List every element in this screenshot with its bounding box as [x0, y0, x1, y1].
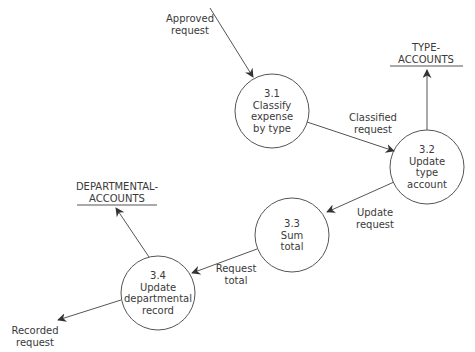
process-label: 3.1 Classify expense by type	[251, 88, 293, 134]
data-flow-label: Update request	[356, 207, 394, 230]
data-store-label: TYPE- ACCOUNTS	[398, 42, 454, 65]
data-flow-label: Request total	[216, 263, 257, 286]
data-flow-arrow	[210, 8, 253, 77]
data-flow-arrow	[58, 300, 121, 320]
data-flow-label: Classified request	[349, 112, 397, 135]
data-flow-arrow	[116, 208, 149, 257]
data-store-label: DEPARTMENTAL- ACCOUNTS	[76, 181, 158, 204]
process-label: 3.3 Sum total	[281, 218, 304, 253]
process-label: 3.2 Update type account	[407, 144, 447, 190]
process-label: 3.4 Update departmental record	[124, 270, 192, 316]
data-flow-label: Recorded request	[11, 325, 58, 348]
data-flow-label: Approved request	[166, 13, 214, 36]
